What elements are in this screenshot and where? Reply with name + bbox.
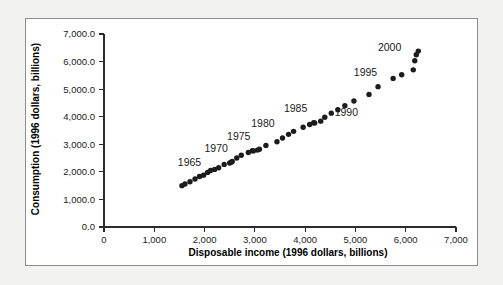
data-point — [221, 162, 226, 167]
scatter-chart: 0.01,000.02,000.03,000.04,000.05,000.06,… — [26, 19, 477, 265]
data-point — [412, 58, 417, 63]
data-point — [187, 179, 192, 184]
year-label: 1990 — [335, 106, 359, 118]
x-tick-label: 3,000 — [243, 234, 267, 245]
year-label: 1965 — [178, 156, 202, 168]
data-point — [318, 118, 323, 123]
data-point — [312, 120, 317, 125]
data-point — [280, 135, 285, 140]
y-tick-label: 2,000.0 — [63, 166, 95, 177]
y-tick-label: 5,000.0 — [63, 84, 95, 95]
data-point — [182, 181, 187, 186]
data-point — [300, 124, 305, 129]
x-tick-label: 6,000 — [394, 234, 418, 245]
x-tick-label: 4,000 — [293, 234, 317, 245]
data-points — [179, 48, 421, 188]
data-point — [351, 98, 356, 103]
data-point — [192, 176, 197, 181]
data-point — [366, 92, 371, 97]
x-tick-label: 5,000 — [344, 234, 368, 245]
x-tick-label: 2,000 — [193, 234, 217, 245]
data-point — [399, 72, 404, 77]
data-point — [216, 165, 221, 170]
year-label: 1985 — [284, 102, 308, 114]
x-axis-ticks: 01,0002,0003,0004,0005,0006,0007,000 — [101, 227, 468, 245]
y-tick-label: 0.0 — [82, 221, 95, 232]
y-tick-label: 7,000.0 — [63, 28, 95, 39]
y-axis-title: Consumption (1996 dollars, billions) — [30, 43, 41, 215]
data-point — [286, 132, 291, 137]
data-point — [291, 129, 296, 134]
year-label: 1995 — [354, 66, 378, 78]
chart-axes — [104, 34, 456, 227]
y-tick-label: 1,000.0 — [63, 194, 95, 205]
year-label: 2000 — [378, 41, 402, 53]
data-point — [329, 110, 334, 115]
data-point — [411, 67, 416, 72]
year-label: 1970 — [204, 142, 228, 154]
y-tick-label: 6,000.0 — [63, 56, 95, 67]
x-tick-label: 7,000 — [444, 234, 468, 245]
year-label: 1980 — [251, 117, 275, 129]
y-tick-label: 3,000.0 — [63, 139, 95, 150]
x-axis-title: Disposable income (1996 dollars, billion… — [189, 247, 388, 258]
data-point — [239, 153, 244, 158]
year-label: 1975 — [227, 130, 251, 142]
x-tick-label: 1,000 — [142, 234, 166, 245]
figure-frame: 0.01,000.02,000.03,000.04,000.05,000.06,… — [25, 18, 478, 266]
y-axis-ticks: 0.01,000.02,000.03,000.04,000.05,000.06,… — [63, 28, 104, 232]
data-point — [257, 147, 262, 152]
data-point — [274, 139, 279, 144]
data-point — [234, 155, 239, 160]
data-point — [322, 115, 327, 120]
data-point — [375, 84, 380, 89]
data-point — [230, 159, 235, 164]
x-tick-label: 0 — [101, 234, 106, 245]
data-point — [263, 143, 268, 148]
y-tick-label: 4,000.0 — [63, 111, 95, 122]
data-point — [390, 76, 395, 81]
year-annotations: 19651970197519801985199019952000 — [178, 41, 402, 169]
data-point — [416, 48, 421, 53]
